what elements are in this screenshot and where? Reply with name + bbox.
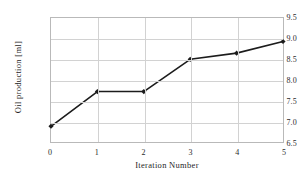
- y-axis-title: Oil production [ml]: [13, 14, 23, 140]
- gridline-vertical: [238, 18, 239, 142]
- plot-area: [50, 17, 284, 143]
- oil-production-line-chart: 6.57.07.58.08.59.09.5 012345 Oil product…: [0, 0, 302, 185]
- series-markers: [48, 39, 285, 129]
- gridline-horizontal: [51, 123, 283, 124]
- x-axis-title: Iteration Number: [50, 160, 284, 170]
- x-tick-label: 5: [272, 148, 296, 157]
- x-tick-label: 2: [132, 148, 156, 157]
- gridline-horizontal: [51, 39, 283, 40]
- series-polyline: [51, 42, 283, 127]
- gridline-vertical: [191, 18, 192, 142]
- gridline-horizontal: [51, 102, 283, 103]
- gridline-horizontal: [51, 60, 283, 61]
- x-tick-label: 1: [85, 148, 109, 157]
- x-tick-label: 4: [225, 148, 249, 157]
- gridline-vertical: [98, 18, 99, 142]
- gridline-vertical: [145, 18, 146, 142]
- gridline-horizontal: [51, 81, 283, 82]
- x-tick-label: 0: [38, 148, 62, 157]
- x-tick-label: 3: [178, 148, 202, 157]
